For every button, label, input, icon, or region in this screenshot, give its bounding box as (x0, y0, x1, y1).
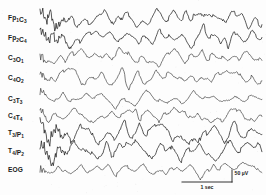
grain-speck (118, 119, 119, 120)
grain-speck (215, 61, 216, 62)
grain-speck (162, 64, 163, 65)
grain-speck (136, 74, 137, 75)
grain-speck (2, 13, 3, 14)
grain-speck (181, 139, 182, 140)
grain-speck (75, 108, 76, 109)
grain-speck (181, 183, 182, 184)
eeg-chart: Fp1C3Fp2C4C3O1C4O2C3T3C4T4T3/P1T4/P2EOG … (0, 0, 266, 195)
grain-speck (264, 54, 265, 55)
grain-speck (51, 184, 52, 185)
grain-speck (205, 126, 206, 127)
grain-speck (45, 165, 46, 166)
grain-speck (117, 182, 118, 183)
grain-speck (257, 171, 258, 172)
grain-speck (50, 21, 51, 22)
grain-speck (265, 34, 266, 35)
grain-speck (132, 102, 133, 103)
grain-speck (101, 61, 102, 62)
grain-speck (248, 56, 249, 57)
grain-speck (121, 129, 122, 130)
grain-speck (135, 184, 136, 185)
grain-speck (81, 81, 82, 82)
grain-speck (173, 111, 174, 112)
grain-speck (45, 159, 46, 160)
grain-speck (77, 63, 78, 64)
grain-speck (198, 151, 199, 152)
grain-speck (220, 163, 221, 164)
grain-speck (216, 111, 217, 112)
grain-speck (26, 50, 27, 51)
grain-speck (154, 34, 155, 35)
grain-speck (77, 122, 78, 123)
grain-speck (210, 112, 211, 113)
grain-speck (246, 43, 247, 44)
grain-speck (224, 179, 225, 180)
grain-speck (108, 84, 109, 85)
grain-speck (241, 132, 242, 133)
grain-speck (252, 190, 253, 191)
grain-speck (92, 189, 93, 190)
grain-speck (57, 102, 58, 103)
grain-speck (26, 72, 27, 73)
grain-speck (112, 65, 113, 66)
grain-speck (164, 76, 165, 77)
grain-speck (238, 83, 239, 84)
grain-speck (42, 16, 43, 17)
grain-speck (3, 10, 4, 11)
grain-speck (172, 146, 173, 147)
grain-speck (103, 85, 104, 86)
grain-speck (139, 63, 140, 64)
grain-speck (252, 56, 253, 57)
grain-speck (71, 12, 72, 13)
grain-speck (128, 146, 129, 147)
grain-speck (177, 35, 178, 36)
grain-speck (137, 191, 138, 192)
grain-speck (125, 52, 126, 53)
grain-speck (150, 174, 151, 175)
grain-speck (193, 121, 194, 122)
grain-speck (104, 186, 105, 187)
grain-speck (108, 147, 109, 148)
grain-speck (143, 179, 144, 180)
grain-speck (216, 188, 217, 189)
grain-speck (204, 57, 205, 58)
grain-speck (65, 70, 66, 71)
grain-speck (46, 115, 47, 116)
grain-speck (198, 0, 199, 1)
grain-speck (71, 32, 72, 33)
grain-speck (260, 25, 261, 26)
channel-label-eog: EOG (8, 166, 23, 173)
grain-speck (151, 173, 152, 174)
grain-speck (86, 192, 87, 193)
grain-speck (109, 158, 110, 159)
grain-speck (184, 17, 185, 18)
calibration-amplitude-label: 50 µV (235, 170, 249, 176)
grain-speck (162, 166, 163, 167)
grain-speck (262, 42, 263, 43)
grain-speck (117, 186, 118, 187)
grain-speck (105, 175, 106, 176)
grain-speck (180, 157, 181, 158)
grain-speck (257, 151, 258, 152)
grain-speck (136, 184, 137, 185)
calibration-time-label: 1 sec (201, 184, 214, 190)
grain-speck (85, 166, 86, 167)
grain-speck (106, 185, 107, 186)
grain-speck (122, 106, 123, 107)
grain-speck (255, 137, 256, 138)
grain-speck (132, 140, 133, 141)
grain-speck (185, 73, 186, 74)
grain-speck (175, 194, 176, 195)
grain-speck (8, 81, 9, 82)
grain-speck (232, 55, 233, 56)
grain-speck (33, 121, 34, 122)
grain-speck (13, 27, 14, 28)
grain-speck (226, 116, 227, 117)
grain-speck (75, 91, 76, 92)
grain-speck (162, 33, 163, 34)
grain-speck (59, 187, 60, 188)
grain-speck (167, 144, 168, 145)
grain-speck (231, 76, 232, 77)
grain-speck (200, 16, 201, 17)
grain-speck (141, 44, 142, 45)
